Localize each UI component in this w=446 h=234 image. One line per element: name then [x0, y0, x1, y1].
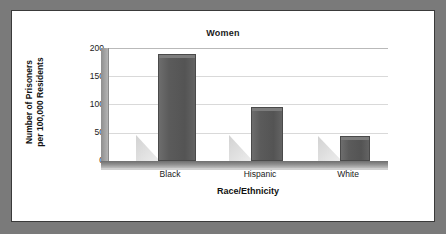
x-axis-title: Race/Ethnicity [108, 186, 388, 196]
plot-area [108, 48, 388, 161]
bar-body [158, 54, 196, 161]
chart-title: Women [0, 28, 446, 38]
gridline-50 [108, 133, 388, 134]
axis-floor [101, 161, 388, 168]
y-axis-title: Number of Prisoners per 100,000 Resident… [22, 38, 48, 166]
y-axis-title-line1: Number of Prisoners [24, 57, 35, 146]
axis-wall-left [101, 48, 108, 161]
bar-body [340, 136, 370, 161]
bar-white[interactable] [340, 136, 370, 161]
x-tick-label-white: White [337, 169, 359, 179]
bar-top-face [252, 108, 282, 111]
bar-body [251, 107, 283, 161]
gridline-150 [108, 76, 388, 77]
y-axis-tick-labels: 200 150 100 50 0 [74, 48, 104, 161]
bar-black[interactable] [158, 54, 196, 161]
x-axis-tick-labels: Black Hispanic White [108, 169, 388, 183]
bar-hispanic[interactable] [251, 107, 283, 161]
bar-top-face [159, 55, 195, 58]
gridline-100 [108, 104, 388, 105]
y-axis-line [108, 48, 109, 162]
y-axis-title-line2: per 100,000 Residents [35, 57, 46, 146]
bar-top-face [341, 137, 369, 140]
chart-figure: Women Number of Prisoners per 100,000 Re… [0, 0, 446, 234]
x-tick-label-hispanic: Hispanic [244, 169, 277, 179]
x-tick-label-black: Black [160, 169, 181, 179]
